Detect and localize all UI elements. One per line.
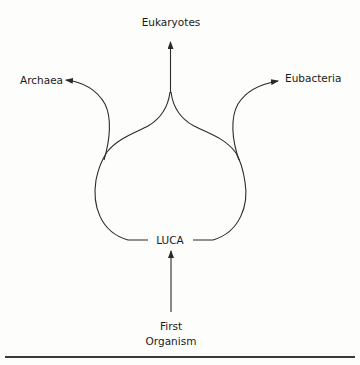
node-label-luca: LUCA [153, 233, 187, 247]
edge-luca-to-eubacteria [233, 81, 278, 160]
node-label-eubacteria: Eubacteria [285, 71, 341, 85]
node-label-eukaryotes: Eukaryotes [142, 15, 201, 29]
first-organism-line-1: First [146, 319, 197, 334]
edge-luca-to-archaea [66, 80, 109, 160]
edge-luca-left-lobe [95, 152, 148, 240]
edge-left-shoulder-to-cusp [107, 92, 170, 152]
tree-of-life-diagram [0, 0, 360, 365]
edge-right-shoulder-to-cusp [171, 92, 236, 153]
edge-luca-right-lobe [193, 153, 246, 240]
node-label-first-organism: First Organism [146, 319, 197, 349]
node-label-archaea: Archaea [20, 73, 63, 87]
bottom-divider [5, 356, 355, 358]
first-organism-line-2: Organism [146, 334, 197, 349]
